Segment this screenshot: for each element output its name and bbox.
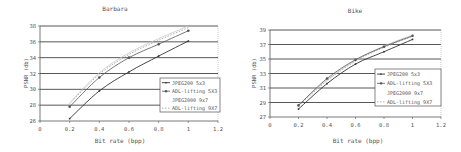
y-tick-label: 32 bbox=[29, 71, 36, 77]
bike-plot: Bike2729313335373900.20.40.60.811.2Bit r… bbox=[230, 0, 461, 152]
y-tick-label: 29 bbox=[259, 100, 266, 106]
y-tick-label: 27 bbox=[259, 114, 266, 120]
data-point bbox=[157, 43, 160, 46]
bike-chart: Bike2729313335373900.20.40.60.811.2Bit r… bbox=[230, 0, 461, 152]
data-point bbox=[128, 71, 130, 73]
y-tick-label: 30 bbox=[29, 86, 36, 92]
x-tick-label: 1.2 bbox=[213, 126, 223, 132]
x-tick-label: 1.2 bbox=[436, 122, 446, 128]
data-point bbox=[383, 45, 386, 48]
data-point bbox=[383, 51, 385, 53]
data-point bbox=[99, 90, 101, 92]
legend-entry: ADL-lifting 5X3 bbox=[387, 80, 432, 87]
legend-entry: ADL-lifting 9X7 bbox=[387, 99, 432, 106]
data-point bbox=[355, 63, 357, 65]
x-tick-label: 0.8 bbox=[379, 122, 389, 128]
x-tick-label: 0 bbox=[38, 126, 41, 132]
x-tick-label: 0.6 bbox=[124, 126, 134, 132]
barbara-chart: Barbara2628303234363800.20.40.60.811.2Bi… bbox=[0, 0, 230, 152]
y-tick-label: 33 bbox=[259, 71, 266, 77]
y-tick-label: 28 bbox=[29, 102, 36, 108]
legend: JPEG200 5x3ADL-lifting 5X3JPEG2000 9x7AD… bbox=[375, 69, 441, 106]
x-tick-label: 0.6 bbox=[351, 122, 361, 128]
x-tick-label: 0.2 bbox=[294, 122, 304, 128]
y-axis-label: PSNR (db) bbox=[23, 58, 29, 88]
legend-entry: JPEG2000 9x7 bbox=[387, 90, 423, 96]
data-point bbox=[188, 40, 190, 42]
legend-entry: JPEG200 5x3 bbox=[172, 80, 205, 86]
legend-entry: JPEG200 5x3 bbox=[387, 71, 420, 77]
x-tick-label: 0.4 bbox=[94, 126, 105, 132]
x-tick-label: 1 bbox=[187, 126, 190, 132]
data-point bbox=[128, 56, 131, 59]
x-tick-label: 1 bbox=[411, 122, 414, 128]
x-tick-label: 0.2 bbox=[65, 126, 75, 132]
data-point bbox=[68, 105, 71, 108]
data-point bbox=[411, 35, 414, 38]
y-axis-label: PSNR (db) bbox=[251, 58, 257, 88]
data-point bbox=[412, 39, 414, 41]
x-tick-label: 0.8 bbox=[154, 126, 164, 132]
x-tick-label: 0 bbox=[268, 122, 271, 128]
chart-title: Bike bbox=[348, 7, 363, 14]
data-point bbox=[158, 55, 160, 57]
y-tick-label: 35 bbox=[259, 56, 266, 62]
legend-entry: ADL-lifting 5X3 bbox=[172, 88, 217, 95]
data-point bbox=[326, 77, 329, 80]
x-tick-label: 0.4 bbox=[322, 122, 333, 128]
legend: JPEG200 5x3ADL-lifting 5X3JPEG2000 9x7AD… bbox=[160, 78, 220, 112]
data-point bbox=[354, 58, 357, 61]
data-point bbox=[69, 118, 71, 120]
chart-title: Barbara bbox=[102, 5, 128, 12]
y-tick-label: 34 bbox=[29, 55, 36, 61]
barbara-plot: Barbara2628303234363800.20.40.60.811.2Bi… bbox=[0, 0, 230, 152]
legend-entry: JPEG2000 9x7 bbox=[172, 97, 208, 103]
y-tick-label: 38 bbox=[29, 23, 36, 29]
y-tick-label: 26 bbox=[29, 118, 36, 124]
data-point bbox=[297, 104, 300, 107]
y-tick-label: 31 bbox=[259, 85, 266, 91]
data-point bbox=[98, 76, 101, 79]
x-axis-label: Bit rate (bpp) bbox=[333, 137, 384, 145]
y-tick-label: 36 bbox=[29, 39, 36, 45]
data-point bbox=[326, 83, 328, 85]
x-axis-label: Bit rate (bpp) bbox=[95, 137, 146, 145]
legend-entry: ADL-lifting 9X7 bbox=[172, 105, 217, 112]
y-tick-label: 39 bbox=[259, 27, 266, 33]
data-point bbox=[298, 108, 300, 110]
y-tick-label: 37 bbox=[259, 42, 266, 48]
data-point bbox=[187, 29, 190, 32]
